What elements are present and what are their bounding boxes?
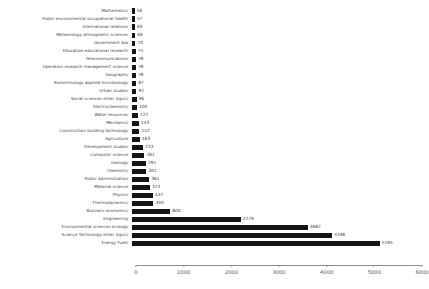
x-axis-tick-label: 5000 [368, 270, 381, 275]
x-axis-tick-mark [183, 265, 184, 267]
bar-row: Operation research management science78 [0, 63, 422, 71]
x-axis-tick: 4000 [320, 265, 333, 275]
category-label: Geography [0, 73, 132, 77]
bar [132, 201, 153, 206]
bar-track: 800 [132, 207, 422, 215]
category-label: Energy Fuels [0, 241, 132, 245]
bar-track: 66 [132, 31, 422, 39]
bar-value-label: 78 [136, 73, 144, 77]
category-label: Operation research management science [0, 65, 132, 69]
category-label: Agriculture [0, 137, 132, 141]
bar-track: 60 [132, 23, 422, 31]
category-label: Development studies [0, 145, 132, 149]
x-axis-tick-label: 0 [134, 270, 137, 275]
bar-track: 3682 [132, 223, 422, 231]
bar-track: 291 [132, 159, 422, 167]
bar-value-label: 3682 [308, 225, 321, 229]
bar [132, 185, 150, 190]
category-label: International relations [0, 25, 132, 29]
bar-row: Government law70 [0, 39, 422, 47]
x-axis-tick-mark [374, 265, 375, 267]
x-axis-tick-mark [326, 265, 327, 267]
bar-row: Engineering2279 [0, 215, 422, 223]
category-label: Urban studies [0, 89, 132, 93]
category-label: Public administration [0, 177, 132, 181]
x-axis-tick-mark [136, 265, 137, 267]
x-axis-tick: 3000 [272, 265, 285, 275]
x-axis-tick-label: 1000 [177, 270, 190, 275]
bar-value-label: 233 [143, 145, 153, 149]
bar [132, 161, 146, 166]
bar-value-label: 5195 [380, 241, 393, 245]
category-label: Construction building technology [0, 129, 132, 133]
bar-row: Material science373 [0, 183, 422, 191]
x-axis-tick: 0 [134, 265, 137, 275]
x-axis-tick-mark [278, 265, 279, 267]
bar-track: 87 [132, 79, 422, 87]
x-axis-tick-label: 2000 [225, 270, 238, 275]
bar-row: Education educational research75 [0, 47, 422, 55]
x-axis-tick: 1000 [177, 265, 190, 275]
category-label: Thermodynamics [0, 201, 132, 205]
x-axis-tick-mark [421, 265, 422, 267]
category-label: Social sciences other topics [0, 97, 132, 101]
category-label: Water resources [0, 113, 132, 117]
bar-value-label: 60 [135, 25, 143, 29]
bar-value-label: 57 [135, 17, 143, 21]
bar-value-label: 4196 [332, 233, 345, 237]
category-label: Geology [0, 161, 132, 165]
bar-row: Energy Fuels5195 [0, 239, 422, 247]
bar-value-label: 96 [137, 97, 145, 101]
bar-row: Meteorology atmospheric sciences66 [0, 31, 422, 39]
category-label: Public environmental occupational health [0, 17, 132, 21]
bar-row: Agriculture163 [0, 135, 422, 143]
bar-track: 57 [132, 15, 422, 23]
category-label: Science Technology other topics [0, 233, 132, 237]
bar-row: Chemistry301 [0, 167, 422, 175]
bar-value-label: 75 [136, 49, 144, 53]
bar [132, 241, 380, 246]
bar-row: Biotechnology applied microbiology87 [0, 79, 422, 87]
bar [132, 233, 332, 238]
bar-track: 2279 [132, 215, 422, 223]
bar-row: Social sciences other topics96 [0, 95, 422, 103]
category-label: Environmental sciences ecology [0, 225, 132, 229]
category-label: Material science [0, 185, 132, 189]
bar-track: 100 [132, 103, 422, 111]
bar-row: Mechanics143 [0, 119, 422, 127]
category-label: Electrochemistry [0, 105, 132, 109]
bar [132, 209, 170, 214]
x-axis-tick: 2000 [225, 265, 238, 275]
bar [132, 129, 139, 134]
x-axis-tick-mark [231, 265, 232, 267]
bar-row: Public administration361 [0, 175, 422, 183]
category-label: Business economics [0, 209, 132, 213]
bar-value-label: 70 [135, 41, 143, 45]
bar-row: Thermodynamics450 [0, 199, 422, 207]
bar-rows-container: Mathematics56Public environmental occupa… [0, 7, 422, 247]
bar-track: 4196 [132, 231, 422, 239]
x-axis-tick: 5000 [368, 265, 381, 275]
bar-row: Construction building technology152 [0, 127, 422, 135]
bar-track: 78 [132, 63, 422, 71]
x-axis: 0100020003000400050006000 [136, 265, 422, 287]
bar [132, 121, 139, 126]
bar [132, 225, 308, 230]
bar-track: 163 [132, 135, 422, 143]
bar-track: 78 [132, 71, 422, 79]
bar-track: 233 [132, 143, 422, 151]
bar-row: Mathematics56 [0, 7, 422, 15]
bar-value-label: 87 [136, 81, 144, 85]
bar-value-label: 291 [146, 161, 156, 165]
x-axis-tick: 6000 [415, 265, 428, 275]
bar-value-label: 2279 [241, 217, 254, 221]
category-label: Engineering [0, 217, 132, 221]
bar-value-label: 143 [139, 121, 149, 125]
bar-row: Urban studies92 [0, 87, 422, 95]
bar-row: Computer science261 [0, 151, 422, 159]
bar-track: 361 [132, 175, 422, 183]
bar-track: 75 [132, 47, 422, 55]
bar-track: 92 [132, 87, 422, 95]
bar-track: 373 [132, 183, 422, 191]
bar [132, 217, 241, 222]
